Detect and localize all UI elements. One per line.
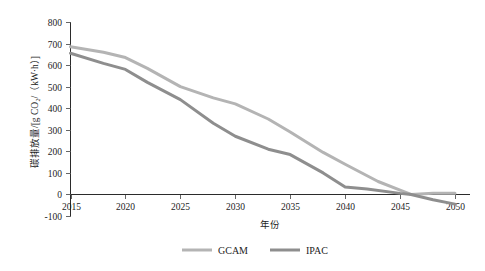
x-tick-label: 2020 [116,202,135,212]
legend-label-ipac: IPAC [306,245,328,256]
x-tick-label: 2040 [336,202,355,212]
y-tick-label: -100 [45,212,63,222]
emissions-line-chart: 8007006005004003002001000-100 2015202020… [0,0,485,271]
x-tick-label: 2035 [281,202,300,212]
chart-legend: GCAMIPAC [182,245,328,256]
y-axis-tick-labels: 8007006005004003002001000-100 [45,18,63,222]
y-tick-label: 700 [48,40,63,50]
legend-label-gcam: GCAM [218,245,248,256]
y-axis-tick-marks [66,23,71,217]
y-axis-title: 碳排放量/[g CO₂/（kW·h）] [29,56,40,168]
series-line-gcam [71,47,456,195]
y-tick-label: 100 [48,169,63,179]
y-tick-label: 300 [48,126,63,136]
y-tick-label: 500 [48,83,63,93]
x-tick-label: 2015 [62,202,81,212]
x-axis-title: 年份 [260,219,280,230]
x-tick-label: 2025 [171,202,190,212]
series-lines [71,47,456,204]
x-axis-tick-labels: 20152020202520302035204020452050 [62,202,465,212]
x-axis-tick-marks [72,195,456,200]
y-tick-label: 0 [57,190,62,200]
series-line-ipac [71,53,456,204]
y-tick-label: 400 [48,104,63,114]
x-tick-label: 2030 [226,202,245,212]
y-tick-label: 600 [48,61,63,71]
chart-container: 8007006005004003002001000-100 2015202020… [0,0,485,271]
x-tick-label: 2045 [391,202,410,212]
y-tick-label: 200 [48,147,63,157]
y-tick-label: 800 [48,18,63,28]
